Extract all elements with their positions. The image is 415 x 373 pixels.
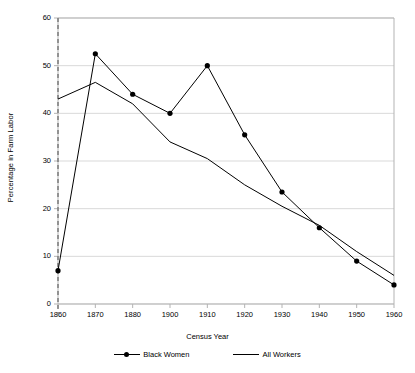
data-point-marker [242, 132, 247, 137]
series-line-black-women [58, 54, 394, 285]
legend-label: Black Women [143, 350, 189, 359]
data-point-marker [391, 282, 396, 287]
data-point-marker [205, 63, 210, 68]
plot-area [0, 0, 415, 373]
legend-item-black-women: Black Women [114, 350, 189, 359]
legend-label: All Workers [262, 350, 300, 359]
data-point-marker [130, 92, 135, 97]
legend-marker-line-icon [114, 350, 140, 359]
data-point-marker [93, 51, 98, 56]
chart-figure: Percentage in Farm Labor Census Year 010… [0, 0, 415, 373]
legend-item-all-workers: All Workers [233, 350, 300, 359]
data-point-marker [354, 259, 359, 264]
legend-line-icon [233, 350, 259, 359]
data-point-marker [55, 268, 60, 273]
series-line-all-workers [58, 82, 394, 275]
data-point-marker [167, 111, 172, 116]
chart-legend: Black Women All Workers [0, 350, 415, 359]
data-point-marker [279, 189, 284, 194]
